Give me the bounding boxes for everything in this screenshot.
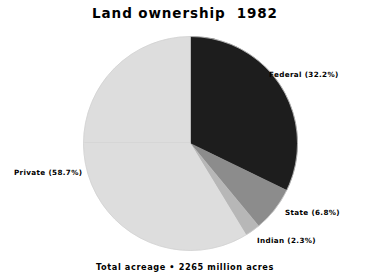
pie-slice-group: [84, 37, 298, 251]
chart-footnote: Total acreage • 2265 million acres: [0, 262, 370, 272]
pie-chart-figure: Land ownership 1982 Federal (32.2%) Stat…: [0, 0, 370, 280]
pie-label-private: Private (58.7%): [14, 168, 82, 177]
pie-label-federal: Federal (32.2%): [269, 70, 339, 79]
pie-label-indian: Indian (2.3%): [257, 236, 316, 245]
pie-label-state: State (6.8%): [285, 208, 340, 217]
